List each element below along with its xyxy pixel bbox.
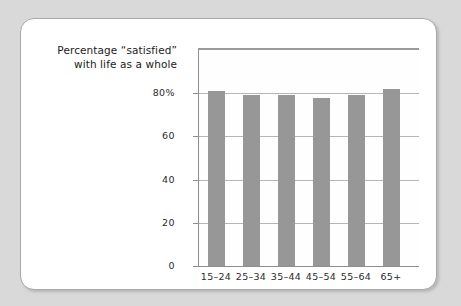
figure-card: Percentage “satisfied” with life as a wh… xyxy=(20,18,437,290)
y-tick-label-60: 60 xyxy=(115,130,175,141)
y-tick-label-20: 20 xyxy=(115,217,175,228)
y-tick-label-80: 80% xyxy=(115,87,175,98)
plot-top-rule xyxy=(198,48,419,50)
x-axis-title: Age group xyxy=(198,287,419,290)
bar-25-34 xyxy=(243,95,260,266)
bar-35-44 xyxy=(278,95,295,266)
chart-title-line-2: with life as a whole xyxy=(35,57,177,71)
y-tick-label-40: 40 xyxy=(115,174,175,185)
bar-chart-plot: 80% 60 40 20 0 15–24 25–34 35–44 45–54 5… xyxy=(182,31,419,269)
x-axis-line xyxy=(198,266,419,267)
bar-15-24 xyxy=(208,91,225,266)
y-tick-label-0: 0 xyxy=(115,260,175,271)
cat-label-65-plus: 65+ xyxy=(368,271,414,282)
y-axis-line xyxy=(198,50,199,267)
chart-title-line-1: Percentage “satisfied” xyxy=(35,43,177,57)
bar-55-64 xyxy=(348,95,365,266)
bar-45-54 xyxy=(313,98,330,266)
bar-65-plus xyxy=(383,89,400,266)
chart-title: Percentage “satisfied” with life as a wh… xyxy=(35,43,177,71)
